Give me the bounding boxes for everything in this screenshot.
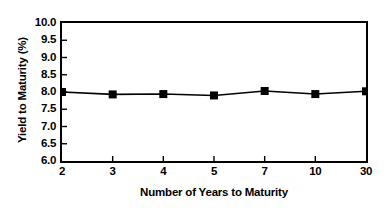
x-axis-tick-label: 2 [42,166,82,178]
plot-area [60,21,368,163]
x-axis-tick-label: 5 [194,166,234,178]
data-point-marker [159,90,167,98]
data-series-svg [62,23,366,161]
data-point-marker [62,88,66,96]
yield-curve-chart: Yield to Maturity (%) 6.06.57.07.58.08.5… [0,0,388,210]
y-axis-tick-label: 6.0 [16,155,56,167]
x-axis-tick-label: 10 [295,166,335,178]
y-axis-tick-label: 9.5 [16,34,56,46]
y-axis-tick-label: 10.0 [16,17,56,29]
x-axis-title: Number of Years to Maturity [60,186,368,198]
data-point-marker [109,90,117,98]
data-point-marker [210,91,218,99]
y-axis-tick-label: 7.0 [16,121,56,133]
x-axis-tick-label: 7 [245,166,285,178]
data-point-marker [311,90,319,98]
x-axis-tick-labels: 234571030 [60,166,368,182]
y-axis-tick-labels: 6.06.57.07.58.08.59.09.510.0 [14,0,56,210]
y-axis-tick-label: 7.5 [16,103,56,115]
y-axis-tick-label: 6.5 [16,138,56,150]
y-axis-tick-label: 9.0 [16,52,56,64]
data-point-marker [261,87,269,95]
axis-tick-marks [62,40,315,161]
x-axis-tick-label: 30 [346,166,386,178]
data-point-marker [362,87,366,95]
y-axis-tick-label: 8.0 [16,86,56,98]
y-axis-tick-label: 8.5 [16,69,56,81]
x-axis-tick-label: 3 [93,166,133,178]
x-axis-tick-label: 4 [143,166,183,178]
